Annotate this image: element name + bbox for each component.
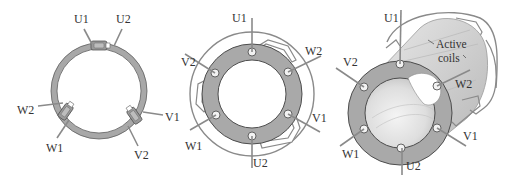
label-v2: V2 xyxy=(343,55,358,69)
label-u1: U1 xyxy=(232,11,247,25)
label-w2: W2 xyxy=(455,77,472,91)
label-w1: W1 xyxy=(342,147,359,161)
label-w1: W1 xyxy=(185,139,202,153)
stator-winding-diagram: U1 U2 W2 V1 W1 V2 xyxy=(0,0,512,182)
panel-2-ring: U1 V2 W2 W1 V1 U2 xyxy=(181,11,327,170)
label-v1: V1 xyxy=(463,129,478,143)
left-jumper xyxy=(386,40,400,48)
label-w1: W1 xyxy=(46,141,63,155)
label-v1: V1 xyxy=(312,111,327,125)
label-u2: U2 xyxy=(406,159,421,173)
label-u1: U1 xyxy=(74,12,89,26)
stator-bore xyxy=(218,60,286,128)
label-v1: V1 xyxy=(165,110,180,124)
terminal-v1 xyxy=(433,124,441,132)
label-u2: U2 xyxy=(116,12,131,26)
label-u1: U1 xyxy=(384,11,399,25)
terminal-u2 xyxy=(397,144,405,152)
panel-1-ring: U1 U2 W2 V1 W1 V2 xyxy=(17,12,180,162)
label-v2: V2 xyxy=(134,148,149,162)
label-u2: U2 xyxy=(253,156,268,170)
label-v2: V2 xyxy=(181,55,196,69)
panel-3-3d-stator: Active coils U1 V2 W2 W1 V1 U2 xyxy=(336,10,497,175)
label-w2: W2 xyxy=(305,44,322,58)
label-w2: W2 xyxy=(17,103,34,117)
coil-u xyxy=(91,41,110,50)
annotation-active: Active xyxy=(436,38,467,50)
annotation-coils: coils xyxy=(438,52,460,64)
